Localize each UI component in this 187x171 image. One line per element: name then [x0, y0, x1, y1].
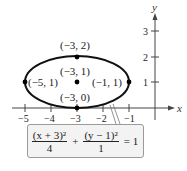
point-label-right: (−1, 1): [92, 76, 122, 89]
x-tick-label: −5: [18, 113, 29, 124]
numerator-1: (x + 3)²: [32, 129, 67, 142]
fraction-2: (y − 1)² 1: [83, 129, 118, 154]
equation-rhs: = 1: [124, 135, 138, 147]
point-label-left: (−5, 1): [28, 76, 58, 89]
y-tick-label: 1: [143, 77, 148, 88]
point-bottom: [75, 106, 80, 111]
x-axis-label: x: [176, 102, 182, 114]
y-axis-label: y: [151, 1, 157, 13]
x-tick-label: −4: [44, 113, 55, 124]
point-label-bottom: (−3, 0): [60, 91, 90, 104]
equation-box: (x + 3)² 4 + (y − 1)² 1 = 1: [27, 124, 144, 158]
point-label-center: (−3, 1): [60, 65, 90, 78]
point-label-top: (−3, 2): [60, 39, 90, 52]
plus-sign: +: [72, 135, 78, 147]
x-tick-label: −1: [124, 113, 135, 124]
fraction-1: (x + 3)² 4: [32, 129, 67, 154]
x-tick-label: −2: [96, 113, 107, 124]
y-tick-label: 3: [143, 26, 148, 37]
point-center: [75, 80, 80, 85]
numerator-2: (y − 1)²: [83, 129, 118, 142]
x-axis-arrow-icon: [168, 106, 175, 111]
y-tick-label: 2: [143, 52, 148, 63]
point-left: [23, 80, 28, 85]
denominator-2: 1: [98, 142, 104, 154]
point-right: [127, 80, 132, 85]
y-axis-arrow-icon: [153, 13, 158, 20]
denominator-1: 4: [47, 142, 53, 154]
point-top: [75, 55, 80, 60]
callout-leader: [113, 104, 120, 124]
x-tick-label: −3: [70, 113, 81, 124]
